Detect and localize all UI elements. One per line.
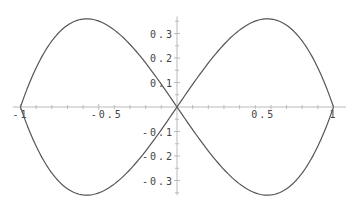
x-tick-label: -1 <box>13 109 29 120</box>
y-tick-label: -0.2 <box>142 151 174 162</box>
x-tick-label: 0.5 <box>251 109 275 120</box>
y-tick-label: -0.1 <box>142 127 174 138</box>
axes <box>13 16 346 195</box>
x-tick-label: -0.5 <box>91 109 123 120</box>
y-tick-label: 0.2 <box>150 53 174 64</box>
y-tick-label: -0.3 <box>142 176 174 187</box>
y-tick-label: 0.1 <box>150 78 174 89</box>
chart-plot: -1-0.50.510.30.20.1-0.1-0.2-0.3 <box>0 0 350 211</box>
y-tick-label: 0.3 <box>150 29 174 40</box>
